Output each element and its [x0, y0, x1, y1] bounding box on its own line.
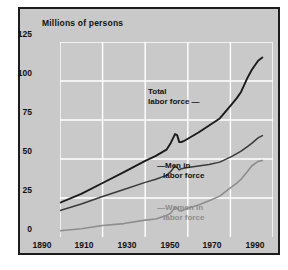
y-axis-tick-50: 50	[6, 147, 32, 156]
y-axis-tick-25: 25	[6, 186, 32, 195]
chart-screenshot: Millions of persons 125 100 75 50 25 0 1…	[0, 0, 288, 270]
x-axis-tick-1990: 1990	[238, 241, 272, 250]
x-axis-tick-1970: 1970	[195, 241, 229, 250]
annotation-women-line1: —Women in	[157, 203, 204, 213]
annotation-men-line1: —Men in	[157, 161, 204, 171]
chart-title: Millions of persons	[42, 18, 123, 28]
annotation-total-line2: labor force —	[148, 97, 200, 107]
y-axis-tick-100: 100	[6, 69, 32, 78]
x-axis-tick-1890: 1890	[25, 241, 59, 250]
chart-figure-frame: Millions of persons 125 100 75 50 25 0 1…	[18, 7, 280, 255]
y-axis-tick-75: 75	[6, 108, 32, 117]
x-axis-tick-1950: 1950	[153, 241, 187, 250]
annotation-total: Total labor force —	[148, 87, 200, 107]
x-axis-tick-1930: 1930	[110, 241, 144, 250]
annotation-women: —Women in labor force	[157, 203, 204, 223]
y-axis-tick-125: 125	[6, 30, 32, 39]
annotation-men-line2: labor force	[157, 171, 204, 181]
y-axis-tick-0: 0	[6, 225, 32, 234]
x-axis-tick-1910: 1910	[67, 241, 101, 250]
annotation-women-line2: labor force	[157, 213, 204, 223]
annotation-men: —Men in labor force	[157, 161, 204, 181]
annotation-total-line1: Total	[148, 87, 200, 97]
